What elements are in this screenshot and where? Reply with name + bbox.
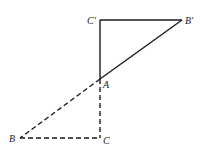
segment-a-b-prime (100, 20, 182, 79)
label-c-prime: C′ (87, 15, 97, 26)
geometry-figure: C′ B′ A B C (0, 0, 204, 152)
diagram-canvas: C′ B′ A B C (0, 0, 204, 152)
dashed-triangle-abc (20, 79, 100, 138)
label-c: C (103, 135, 110, 146)
label-a: A (102, 79, 110, 90)
solid-triangle-ab-prime-c-prime (100, 20, 182, 79)
label-b-prime: B′ (185, 15, 194, 26)
segment-a-b (20, 79, 100, 138)
label-b: B (9, 133, 15, 144)
